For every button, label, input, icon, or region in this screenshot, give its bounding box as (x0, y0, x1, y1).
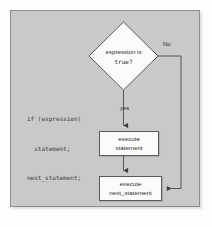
node-execute-next-statement-line1: execute (120, 180, 142, 189)
edge-label-yes: yes (120, 105, 129, 111)
diagram-canvas: expression is true? No yes if (expressio… (0, 0, 212, 227)
decision-label: expression is true? (96, 47, 151, 66)
node-execute-statement: execute statement (99, 131, 159, 156)
code-line-1: if (expression) (27, 114, 81, 124)
code-line-3: next_statement; (27, 173, 81, 183)
node-execute-next-statement-line2: next_statement (109, 189, 151, 198)
edge-label-no: No (163, 41, 171, 47)
node-execute-statement-line2: statement (115, 144, 142, 153)
node-execute-statement-line1: execute (118, 135, 140, 144)
decision-label-line2: true? (96, 57, 151, 66)
code-line-2: statement; (27, 144, 81, 154)
decision-label-line1: expression is (96, 47, 151, 57)
node-execute-next-statement: execute next_statement (99, 176, 162, 201)
code-snippet: if (expression) statement; next_statemen… (27, 95, 81, 202)
edge-no-line (158, 56, 181, 189)
